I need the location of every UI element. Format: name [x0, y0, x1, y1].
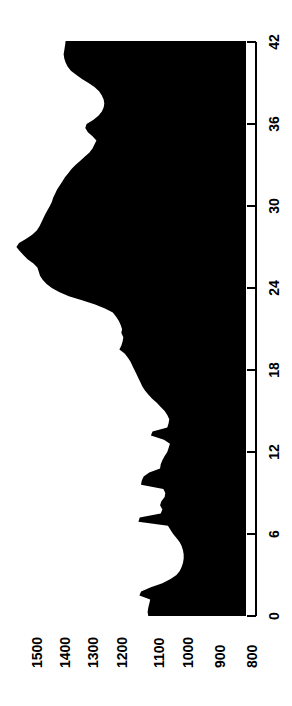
category-tick-mark: [247, 287, 256, 289]
value-tick-label: 1000: [181, 637, 195, 668]
category-tick-label: 24: [267, 280, 281, 296]
category-tick-mark: [247, 615, 256, 617]
area-fill-path: [16, 42, 246, 616]
category-tick-label: 30: [267, 198, 281, 214]
category-tick-label: 42: [267, 34, 281, 50]
category-tick-mark: [247, 451, 256, 453]
category-tick-mark: [247, 205, 256, 207]
area-profile-svg: [0, 40, 248, 618]
value-tick-label: 1400: [58, 637, 72, 668]
value-tick-label: 1300: [86, 637, 100, 668]
category-tick-label: 6: [267, 530, 281, 538]
plot-area: [0, 40, 248, 618]
value-tick-label: 1500: [30, 637, 44, 668]
category-tick-label: 12: [267, 444, 281, 460]
category-tick-label: 36: [267, 116, 281, 132]
value-axis: 1500 1400 1300 1200 1100 1000 900 800: [0, 622, 270, 692]
category-tick-mark: [247, 123, 256, 125]
value-tick-label: 1100: [152, 638, 166, 668]
value-tick-label: 1200: [115, 637, 129, 668]
category-tick-label: 18: [267, 362, 281, 378]
category-axis-line: [255, 42, 257, 616]
category-tick-mark: [247, 533, 256, 535]
category-tick-mark: [247, 41, 256, 43]
category-tick-label: 0: [267, 612, 281, 620]
category-tick-mark: [247, 369, 256, 371]
figure-container: 1500 1400 1300 1200 1100 1000 900 800 42…: [0, 0, 292, 706]
category-axis: 42 36 30 24 18 12 6 0: [244, 0, 292, 706]
value-tick-label: 900: [213, 645, 227, 668]
